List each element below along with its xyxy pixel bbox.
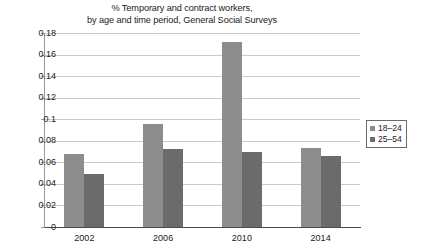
x-axis-label: 2002 [54, 233, 114, 243]
y-axis-label: 0.06 [22, 158, 56, 167]
x-axis-label: 2006 [133, 233, 193, 243]
bar [321, 156, 341, 227]
gridline [45, 119, 360, 120]
bar [222, 42, 242, 227]
legend-swatch-icon [370, 137, 375, 142]
plot-area: 2002200620102014 [45, 33, 360, 227]
bar [64, 154, 84, 227]
gridline [45, 141, 360, 142]
chart-title-line-2: by age and time period, General Social S… [0, 15, 364, 27]
y-axis-line [44, 33, 45, 228]
chart-legend: 18–2425–54 [366, 120, 407, 148]
legend-label: 25–54 [378, 134, 402, 145]
y-axis-label: 0.02 [22, 201, 56, 210]
gridline [45, 55, 360, 56]
gridline [45, 98, 360, 99]
x-axis-label: 2010 [212, 233, 272, 243]
gridline [45, 76, 360, 77]
bar [143, 124, 163, 227]
legend-swatch-icon [370, 126, 375, 131]
chart-title: % Temporary and contract workers, by age… [0, 3, 364, 26]
x-axis-label: 2014 [291, 233, 351, 243]
x-axis-line [44, 227, 361, 228]
y-axis-label: 0.14 [22, 72, 56, 81]
bar [163, 149, 183, 227]
y-axis-label: 0.16 [22, 50, 56, 59]
bar [301, 148, 321, 227]
y-axis-label: 0.12 [22, 93, 56, 102]
legend-item[interactable]: 25–54 [370, 134, 402, 145]
y-axis-label: 0.18 [22, 29, 56, 38]
y-axis-label: 0.1 [22, 115, 56, 124]
bar [242, 152, 262, 227]
y-axis-label: 0 [22, 223, 56, 232]
legend-item[interactable]: 18–24 [370, 123, 402, 134]
chart-title-line-1: % Temporary and contract workers, [0, 3, 364, 15]
bar [84, 174, 104, 227]
y-axis-label: 0.04 [22, 179, 56, 188]
y-axis-label: 0.08 [22, 136, 56, 145]
legend-label: 18–24 [378, 123, 402, 134]
gridline [45, 33, 360, 34]
